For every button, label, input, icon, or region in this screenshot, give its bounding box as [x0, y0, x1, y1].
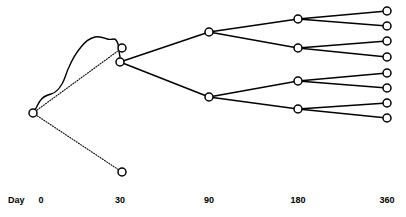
node-day-360-5 [383, 69, 391, 77]
edge-day180-3-to-day360-6 [298, 81, 387, 88]
edge-day180-4-to-day360-8 [298, 109, 387, 118]
edge-day90l-to-day180-4 [209, 97, 298, 109]
node-day-0-root [29, 109, 37, 117]
edge-day180-1-to-day360-1 [298, 11, 387, 19]
node-day-30-lower [118, 168, 126, 176]
edge-day180-3-to-day360-5 [298, 73, 387, 81]
node-day-180-4 [294, 105, 302, 113]
edge-day90l-to-day180-3 [209, 81, 298, 97]
node-day-360-1 [383, 7, 391, 15]
node-day-360-3 [383, 37, 391, 45]
edge-day90u-to-day180-1 [209, 19, 298, 32]
node-day-180-3 [294, 77, 302, 85]
nodes-layer [29, 7, 391, 176]
edge-day30-to-day90-lower [120, 62, 209, 97]
edge-day180-2-to-day360-3 [298, 41, 387, 48]
wavy-solid-curve [33, 37, 120, 113]
edge-day180-1-to-day360-2 [298, 19, 387, 26]
node-day-180-1 [294, 15, 302, 23]
node-day-180-2 [294, 44, 302, 52]
edge-day30-to-day90-upper [120, 32, 209, 62]
node-day-90-lower [205, 93, 213, 101]
node-day-90-upper [205, 28, 213, 36]
node-day-360-6 [383, 84, 391, 92]
curve-layer [33, 37, 120, 113]
node-day-30-middle [116, 58, 124, 66]
node-day-360-2 [383, 22, 391, 30]
node-day-360-8 [383, 114, 391, 122]
node-day-30-upper [118, 44, 126, 52]
edge-day180-4-to-day360-7 [298, 103, 387, 109]
tree-diagram-canvas [0, 0, 406, 217]
edge-root-to-day30-upper [33, 48, 122, 113]
node-day-360-7 [383, 99, 391, 107]
node-day-360-4 [383, 53, 391, 61]
edge-root-to-day30-lower [33, 113, 122, 172]
branching-tree-figure: Day 03090180360 [0, 0, 406, 217]
edge-day90u-to-day180-2 [209, 32, 298, 48]
edge-day180-2-to-day360-4 [298, 48, 387, 57]
